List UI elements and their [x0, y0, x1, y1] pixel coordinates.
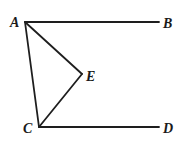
point-label-D: D [162, 121, 173, 136]
point-label-C: C [23, 121, 33, 136]
point-label-A: A [9, 15, 19, 30]
diagram-svg: A B E C D [0, 0, 184, 144]
segment-AE [25, 22, 82, 74]
point-label-B: B [162, 16, 172, 31]
point-label-E: E [85, 69, 95, 84]
segment-EC [39, 74, 82, 127]
geometry-diagram: A B E C D [0, 0, 184, 144]
segment-AC [25, 22, 39, 127]
